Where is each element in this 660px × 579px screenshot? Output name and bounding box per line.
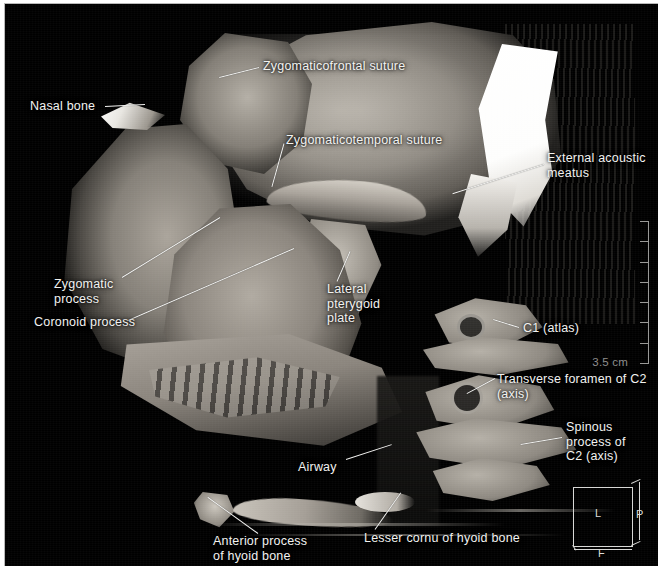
annotation-anterior-process-hyoid[interactable]: Anterior process of hyoid bone [213, 534, 307, 563]
mandibular-body [115, 334, 405, 464]
ct-volume-viewer: Zygomaticofrontal suture Nasal bone Zygo… [0, 0, 660, 579]
ruler-tick [640, 241, 649, 242]
cube-label-posterior: P [636, 508, 643, 520]
zygomatic-arch [266, 173, 429, 227]
dentition [145, 356, 350, 426]
annotation-airway[interactable]: Airway [298, 460, 337, 475]
annotation-transverse-foramen-c2[interactable]: Transverse foramen of C2 (axis) [497, 372, 658, 401]
transverse-foramen [451, 382, 483, 414]
airway-column [377, 376, 439, 526]
dense-petrous-bone [475, 44, 565, 234]
ruler-tick [640, 343, 649, 344]
nasal-bone-structure [101, 96, 165, 130]
ruler-tick [640, 282, 649, 283]
maxilla-nasal-region [53, 124, 243, 374]
hyoid-lesser-cornu [355, 492, 415, 512]
leader-line-external-acoustic-meatus [453, 164, 544, 194]
annotation-external-acoustic-meatus[interactable]: External acoustic meatus [547, 151, 646, 180]
ruler-tick [640, 221, 649, 222]
leader-line-zygomatic-process [122, 217, 221, 278]
leader-line-zygomaticotemporal-suture [272, 143, 285, 186]
cube-label-foot: F [598, 547, 605, 559]
leader-line-nasal-bone [105, 104, 145, 107]
ruler-tick [640, 302, 649, 303]
scale-ruler [627, 221, 649, 364]
ruler-tick [640, 363, 649, 364]
orientation-cube[interactable]: L P F [571, 481, 651, 561]
c1-foramen [457, 314, 485, 340]
ruler-tick [640, 262, 649, 263]
c3-vertebra [425, 456, 555, 506]
leader-line-zygomaticofrontal-suture [219, 67, 259, 78]
render-canvas[interactable]: Zygomaticofrontal suture Nasal bone Zygo… [4, 3, 658, 566]
leader-line-c1-atlas [493, 319, 519, 328]
annotation-zygomaticofrontal-suture[interactable]: Zygomaticofrontal suture [263, 59, 405, 74]
cube-front-face [573, 487, 633, 547]
annotation-zygomaticotemporal-suture[interactable]: Zygomaticotemporal suture [286, 133, 442, 148]
ruler-tick [640, 322, 649, 323]
annotation-nasal-bone[interactable]: Nasal bone [30, 99, 95, 114]
leader-line-coronoid-process [128, 248, 294, 321]
leader-line-lateral-pterygoid-plate [337, 251, 351, 281]
leader-line-spinous-process-c2 [521, 437, 562, 445]
annotation-coronoid-process[interactable]: Coronoid process [34, 315, 135, 330]
leader-line-airway [346, 444, 392, 460]
annotation-lesser-cornu-hyoid[interactable]: Lesser cornu of hyoid bone [364, 531, 520, 546]
annotation-c1-atlas[interactable]: C1 (atlas) [523, 321, 579, 336]
leader-line-anterior-process-hyoid [208, 497, 259, 534]
annotation-lateral-pterygoid-plate[interactable]: Lateral pterygoid plate [327, 282, 380, 326]
annotation-zygomatic-process[interactable]: Zygomatic process [54, 277, 113, 306]
cranial-vault [195, 22, 565, 242]
mastoid-region [457, 174, 527, 264]
ruler-label: 3.5 cm [592, 356, 628, 368]
frontal-bone [165, 30, 315, 180]
cube-label-left: L [595, 507, 601, 519]
c2-spinous-process [413, 416, 578, 474]
annotation-spinous-process-c2[interactable]: Spinous process of C2 (axis) [566, 420, 626, 464]
soft-tissue-streak [205, 523, 505, 526]
leader-line-transverse-foramen-c2 [467, 378, 495, 394]
